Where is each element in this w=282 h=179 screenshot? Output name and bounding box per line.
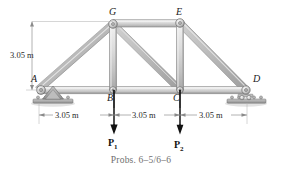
vertical-dimension-label: 3.05 m: [10, 51, 34, 60]
horizontal-dimension-label-2: 3.05 m: [132, 111, 156, 120]
member-bottom-chord: [38, 87, 246, 94]
member-G-E: [113, 20, 180, 27]
joint-label-G: G: [109, 7, 116, 17]
truss-diagram-canvas: [0, 0, 282, 179]
joint-label-B: B: [107, 93, 113, 103]
figure-caption: Probs. 6–5/6–6: [0, 155, 282, 165]
joint-label-A: A: [31, 74, 37, 84]
joint-pin-G: [109, 20, 118, 29]
load-label-P2: P2: [174, 140, 184, 153]
horizontal-dimension-label-1: 3.05 m: [55, 111, 79, 120]
truss-figure: A B C D E G 3.05 m 3.05 m 3.05 m 3.05 m …: [0, 0, 282, 179]
joint-label-D: D: [253, 74, 260, 84]
member-E-C: [177, 23, 184, 90]
member-E-D: [177, 21, 248, 93]
member-G-C: [111, 22, 183, 93]
load-label-P1: P1: [108, 138, 118, 151]
joint-pin-E: [176, 19, 185, 28]
truss-members: [35, 20, 248, 94]
member-G-B: [110, 24, 117, 90]
horizontal-dimension-label-3: 3.05 m: [199, 111, 223, 120]
joint-label-C: C: [173, 93, 180, 103]
joint-label-E: E: [176, 7, 182, 17]
load-label-P2-subscript: 2: [180, 145, 184, 153]
ground-support-right: [225, 96, 267, 107]
member-A-G: [35, 21, 115, 92]
load-label-P1-subscript: 1: [114, 143, 118, 151]
